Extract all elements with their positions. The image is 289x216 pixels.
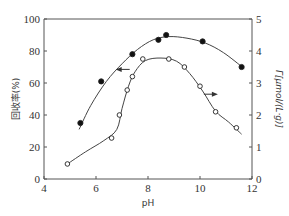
y-left-tick-label: 60 — [29, 77, 41, 89]
tick-labels: 4681012020406080100012345 — [24, 13, 263, 194]
hollow-data-point — [65, 162, 70, 167]
hollow-data-point — [182, 65, 187, 70]
y-right-tick-label: 5 — [256, 13, 262, 25]
y-left-tick-label: 40 — [29, 109, 41, 121]
filled-data-point — [164, 32, 169, 37]
y-right-tick-label: 3 — [256, 77, 262, 89]
filled-data-point — [200, 39, 205, 44]
y-left-tick-label: 100 — [24, 13, 41, 25]
curves — [67, 37, 244, 164]
plot-frame — [44, 19, 252, 179]
y-right-axis-title: Γ[μmol/(L·g)] — [274, 70, 284, 129]
hollow-data-point — [234, 126, 239, 131]
data-points — [65, 32, 244, 166]
chart: 4681012020406080100012345 pH 回收率(%) Γ[μm… — [0, 0, 289, 216]
hollow-data-point — [198, 84, 203, 89]
hollow-data-point — [213, 110, 218, 115]
x-tick-label: 4 — [41, 182, 47, 194]
filled-data-point — [78, 120, 83, 125]
y-left-tick-label: 80 — [29, 45, 41, 57]
x-tick-label: 10 — [195, 182, 207, 194]
right-arrowhead-icon — [212, 92, 218, 97]
y-left-tick-label: 20 — [29, 141, 41, 153]
x-tick-label: 6 — [93, 182, 99, 194]
filled-data-point — [156, 37, 161, 42]
hollow-data-point — [141, 57, 146, 62]
y-right-tick-label: 0 — [256, 173, 262, 185]
hollow-data-point — [130, 74, 135, 79]
x-tick-label: 8 — [145, 182, 151, 194]
y-left-tick-label: 0 — [35, 173, 41, 185]
filled-data-point — [99, 79, 104, 84]
hollow-data-point — [167, 57, 172, 62]
axes — [44, 19, 252, 179]
filled-data-point — [130, 52, 135, 57]
hollow-data-point — [125, 88, 130, 93]
y-right-tick-label: 2 — [256, 109, 262, 121]
y-right-tick-label: 4 — [256, 45, 262, 57]
y-right-tick-label: 1 — [256, 141, 262, 153]
filled-data-point — [239, 64, 244, 69]
hollow-data-point — [117, 113, 122, 118]
hollow-data-point — [109, 136, 114, 141]
x-axis-title: pH — [142, 198, 154, 208]
y-left-axis-title: 回收率(%) — [10, 78, 21, 121]
